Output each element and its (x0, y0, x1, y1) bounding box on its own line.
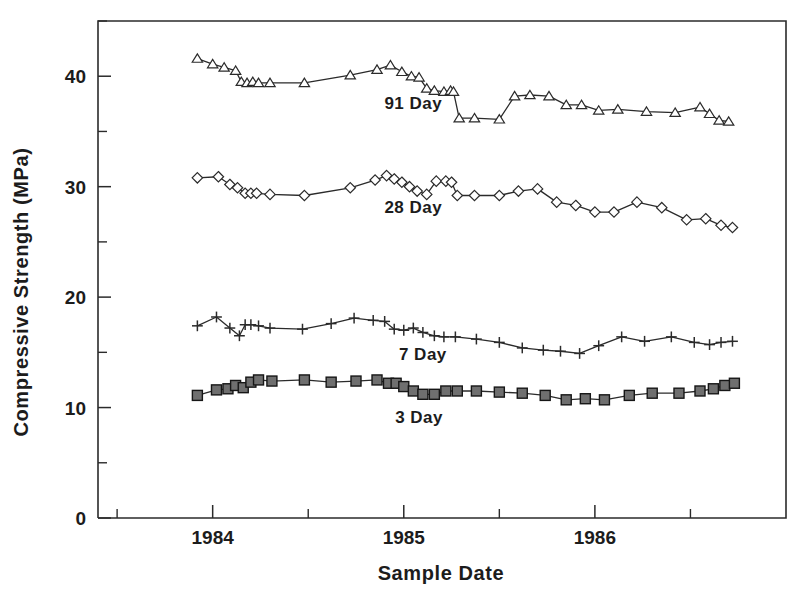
marker-square (494, 387, 504, 397)
marker-square (729, 378, 739, 388)
x-tick-label: 1986 (574, 527, 616, 548)
marker-square (540, 390, 550, 400)
y-tick-label: 30 (65, 177, 86, 198)
x-axis-title: Sample Date (378, 562, 505, 584)
marker-square (561, 395, 571, 405)
marker-square (647, 388, 657, 398)
marker-square (720, 380, 730, 390)
x-tick-label: 1985 (383, 527, 426, 548)
y-axis-title: Compressive Strength (MPa) (10, 148, 32, 437)
marker-square (624, 390, 634, 400)
y-tick-label: 10 (65, 398, 86, 419)
marker-square (695, 386, 705, 396)
chart-figure: 010203040 198419851986 91 Day28 Day7 Day… (0, 0, 800, 594)
marker-square (399, 382, 409, 392)
series-label-91-day: 91 Day (384, 94, 442, 113)
marker-square (408, 386, 418, 396)
marker-square (452, 386, 462, 396)
marker-square (299, 375, 309, 385)
marker-square (254, 375, 264, 385)
marker-square (351, 376, 361, 386)
marker-square (372, 375, 382, 385)
y-tick-label: 0 (75, 508, 86, 529)
marker-square (471, 386, 481, 396)
series-label-7-day: 7 Day (399, 345, 447, 364)
series-label-28-day: 28 Day (384, 198, 442, 217)
marker-square (211, 385, 221, 395)
marker-square (599, 395, 609, 405)
y-tick-label: 40 (65, 66, 86, 87)
marker-square (192, 390, 202, 400)
marker-square (267, 376, 277, 386)
marker-square (580, 394, 590, 404)
marker-square (326, 377, 336, 387)
x-tick-label: 1984 (192, 527, 235, 548)
series-label-3-day: 3 Day (395, 408, 443, 427)
marker-square (429, 389, 439, 399)
chart-background (0, 0, 800, 594)
marker-square (708, 384, 718, 394)
marker-square (418, 389, 428, 399)
marker-square (517, 388, 527, 398)
marker-square (674, 388, 684, 398)
marker-square (441, 386, 451, 396)
line-chart-svg: 010203040 198419851986 91 Day28 Day7 Day… (0, 0, 800, 594)
y-tick-label: 20 (65, 287, 86, 308)
